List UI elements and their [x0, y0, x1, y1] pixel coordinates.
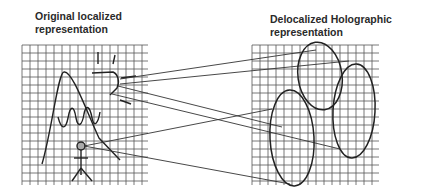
left-grid — [22, 45, 148, 185]
person-head — [77, 142, 85, 150]
localized-scene — [42, 52, 136, 181]
sun-ray — [113, 55, 115, 64]
diagram-canvas — [0, 0, 425, 194]
ellipse-top — [293, 39, 346, 112]
sun — [92, 72, 118, 95]
